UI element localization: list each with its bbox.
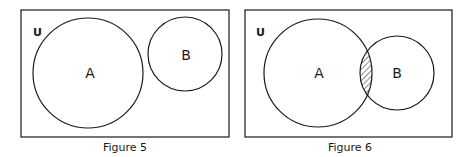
set-b-label: B bbox=[181, 47, 191, 63]
figure-caption: Figure 6 bbox=[328, 141, 372, 154]
set-a-label: A bbox=[85, 65, 95, 81]
universe-label: U bbox=[256, 26, 265, 39]
figure-6: U A B Figure 6 bbox=[245, 10, 452, 154]
venn-diagrams: U A B Figure 5 U A B Figure 6 bbox=[0, 0, 470, 157]
figure-caption: Figure 5 bbox=[103, 141, 147, 154]
set-b-label: B bbox=[392, 65, 402, 81]
figure-5: U A B Figure 5 bbox=[21, 10, 229, 154]
universe-box bbox=[21, 10, 229, 137]
set-a-label: A bbox=[314, 65, 324, 81]
universe-label: U bbox=[33, 26, 42, 39]
